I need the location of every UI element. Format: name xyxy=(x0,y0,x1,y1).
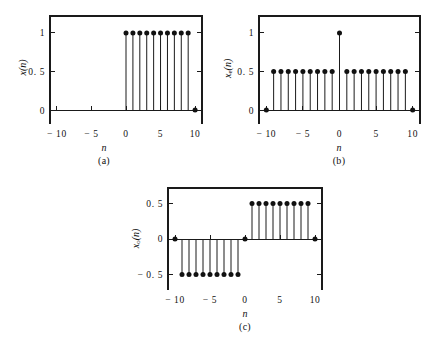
panel-b-y-axis-label: xe(n) xyxy=(222,45,235,91)
x-axis-tick-label: 0 xyxy=(123,129,128,139)
y-axis-tick-label: 0 xyxy=(249,106,254,116)
data-point-marker xyxy=(292,201,297,206)
panel-a-plot: − 10− 5051000. 51 xyxy=(50,16,202,124)
x-axis-tick-label: 5 xyxy=(277,295,282,305)
y-axis-tick-label: 1 xyxy=(249,28,254,38)
x-axis-tick-label: 10 xyxy=(190,129,201,139)
data-point-marker xyxy=(180,272,185,277)
data-point-marker xyxy=(144,30,149,35)
data-point-marker xyxy=(359,69,364,74)
data-point-marker xyxy=(208,272,213,277)
data-point-marker xyxy=(137,30,142,35)
panel-a: − 10− 5051000. 51 xyxy=(50,16,202,124)
data-point-marker xyxy=(172,30,177,35)
data-point-marker xyxy=(344,69,349,74)
x-axis-tick-label: 0 xyxy=(337,129,342,139)
data-point-marker xyxy=(293,69,298,74)
data-point-marker xyxy=(271,201,276,206)
x-axis-tick-label: 5 xyxy=(373,129,378,139)
data-point-marker xyxy=(250,201,255,206)
data-point-marker xyxy=(215,272,220,277)
x-axis-tick-label: 0 xyxy=(242,295,247,305)
y-axis-label-subscript: e xyxy=(226,70,234,73)
y-axis-tick-label: 0. 5 xyxy=(28,67,45,77)
data-point-marker xyxy=(187,272,192,277)
data-point-marker xyxy=(286,69,291,74)
x-axis-tick-label: − 10 xyxy=(165,295,185,305)
data-point-marker xyxy=(179,30,184,35)
data-point-marker xyxy=(264,108,269,113)
data-point-marker xyxy=(299,201,304,206)
x-axis-tick-label: − 5 xyxy=(296,129,310,139)
y-axis-tick-label: 0 xyxy=(40,106,45,116)
panel-c-caption: (c) xyxy=(229,321,261,332)
data-point-marker xyxy=(194,272,199,277)
y-axis-tick-label: 0. 5 xyxy=(146,199,163,209)
data-point-marker xyxy=(158,30,163,35)
data-point-marker xyxy=(300,69,305,74)
y-axis-label-subscript: o xyxy=(134,240,142,244)
data-point-marker xyxy=(186,30,191,35)
data-point-marker xyxy=(403,69,408,74)
data-point-marker xyxy=(315,69,320,74)
panel-a-y-axis-label: x(n) xyxy=(17,45,28,91)
data-point-marker xyxy=(366,69,371,74)
y-axis-tick-label: 0. 5 xyxy=(237,67,254,77)
y-axis-tick-label: − 0. 5 xyxy=(137,270,163,280)
data-point-marker xyxy=(165,30,170,35)
panel-b-plot: − 10− 5051000. 51 xyxy=(259,16,420,124)
data-point-marker xyxy=(313,237,318,242)
panel-c: − 10− 50510− 0. 500. 5 xyxy=(168,188,322,290)
y-axis-tick-label: 1 xyxy=(40,28,45,38)
data-point-marker xyxy=(151,30,156,35)
x-axis-tick-label: − 5 xyxy=(203,295,217,305)
panel-b-x-axis-label: n xyxy=(331,142,347,153)
data-point-marker xyxy=(322,69,327,74)
x-axis-tick-label: 10 xyxy=(407,129,418,139)
data-point-marker xyxy=(278,69,283,74)
y-axis-tick-label: 0 xyxy=(158,234,163,244)
panel-b-caption: (b) xyxy=(323,155,355,166)
data-point-marker xyxy=(229,272,234,277)
x-axis-tick-label: 5 xyxy=(158,129,163,139)
data-point-marker xyxy=(193,108,198,113)
data-point-marker xyxy=(381,69,386,74)
data-point-marker xyxy=(374,69,379,74)
data-point-marker xyxy=(130,30,135,35)
figure-root: − 10− 5051000. 51 x(n) n (a) − 10− 50510… xyxy=(0,0,437,337)
panel-b: − 10− 5051000. 51 xyxy=(259,16,420,124)
data-point-marker xyxy=(396,69,401,74)
x-axis-tick-label: − 10 xyxy=(256,129,276,139)
data-point-marker xyxy=(285,201,290,206)
data-point-marker xyxy=(388,69,393,74)
data-point-marker xyxy=(264,201,269,206)
data-point-marker xyxy=(257,201,262,206)
panel-a-x-axis-label: n xyxy=(96,142,112,153)
data-point-marker xyxy=(243,237,248,242)
x-axis-tick-label: 10 xyxy=(310,295,321,305)
data-point-marker xyxy=(278,201,283,206)
data-point-marker xyxy=(222,272,227,277)
panel-a-caption: (a) xyxy=(88,155,120,166)
data-point-marker xyxy=(330,69,335,74)
data-point-marker xyxy=(271,69,276,74)
data-point-marker xyxy=(124,30,129,35)
x-axis-tick-label: − 10 xyxy=(47,129,67,139)
panel-c-x-axis-label: n xyxy=(237,308,253,319)
data-point-marker xyxy=(173,237,178,242)
data-point-marker xyxy=(201,272,206,277)
panel-c-y-axis-label: xo(n) xyxy=(130,215,143,261)
data-point-marker xyxy=(410,108,415,113)
x-axis-tick-label: − 5 xyxy=(84,129,98,139)
data-point-marker xyxy=(306,201,311,206)
data-point-marker xyxy=(337,30,342,35)
panel-c-plot: − 10− 50510− 0. 500. 5 xyxy=(168,188,322,290)
data-point-marker xyxy=(236,272,241,277)
data-point-marker xyxy=(352,69,357,74)
data-point-marker xyxy=(308,69,313,74)
